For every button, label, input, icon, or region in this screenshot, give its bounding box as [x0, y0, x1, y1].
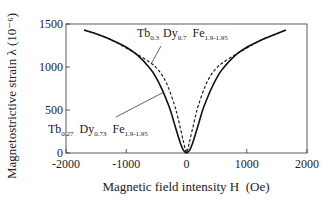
- y-tick-label: 0: [57, 146, 63, 160]
- x-tick-label: 1000: [235, 157, 259, 171]
- x-axis-title: Magnetic field intensity H (Oe): [102, 179, 269, 194]
- y-tick-label: 1500: [39, 17, 63, 31]
- x-tick-label: 2000: [295, 157, 319, 171]
- x-tick-label: -1000: [112, 157, 140, 171]
- annotation-dashed-leader: [151, 46, 161, 64]
- magnetostriction-chart: -2000-1000010002000050010001500 Magnetic…: [0, 0, 333, 210]
- annotation-solid-label: Tb0.27Dy0.73Fe1.9-1.95: [48, 122, 148, 138]
- y-axis-title: Magnetostrictive strain λ (10⁻⁶): [4, 13, 19, 179]
- annotation-solid-leader: [116, 92, 164, 117]
- y-tick-label: 500: [45, 103, 63, 117]
- x-tick-label: 0: [184, 157, 190, 171]
- y-tick-label: 1000: [39, 60, 63, 74]
- annotation-dashed-label: Tb0.3Dy0.7Fe1.9-1.95: [137, 26, 228, 42]
